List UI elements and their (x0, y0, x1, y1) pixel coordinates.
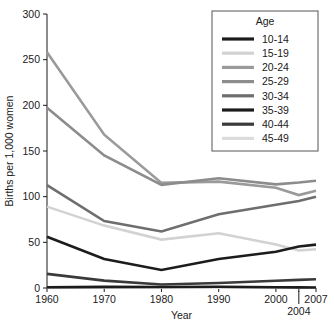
legend-label-20-24: 20-24 (262, 61, 289, 73)
y-tick-label: 250 (22, 53, 40, 65)
series-line-15-19 (47, 207, 316, 251)
y-tick-label: 50 (28, 236, 40, 248)
x-tick-label: 1960 (35, 293, 59, 305)
x-axis-title: Year (171, 309, 193, 321)
y-tick-label: 100 (22, 190, 40, 202)
chart-root: 3002502001501005001960197019801990200020… (0, 0, 334, 325)
y-tick-label: 0 (34, 282, 40, 294)
y-tick-label: 300 (22, 8, 40, 20)
x-tick-label: 1990 (207, 293, 231, 305)
legend-label-15-19: 15-19 (262, 47, 289, 59)
x-tick-label: 2000 (264, 293, 288, 305)
legend-label-30-34: 30-34 (262, 90, 289, 102)
x-tick-label: 1970 (93, 293, 117, 305)
y-tick-label: 200 (22, 99, 40, 111)
legend-label-45-49: 45-49 (262, 132, 289, 144)
line-chart: 3002502001501005001960197019801990200020… (0, 0, 334, 325)
series-line-35-39 (47, 237, 316, 270)
y-axis-title: Births per 1,000 women (3, 95, 15, 206)
legend-title: Age (256, 15, 275, 27)
series-line-40-44 (47, 274, 316, 285)
legend-label-25-29: 25-29 (262, 75, 289, 87)
legend-label-10-14: 10-14 (262, 33, 289, 45)
legend-label-35-39: 35-39 (262, 104, 289, 116)
legend-label-40-44: 40-44 (262, 118, 289, 130)
series-line-10-14 (47, 287, 316, 288)
y-tick-label: 150 (22, 145, 40, 157)
x-tick-label: 1980 (150, 293, 174, 305)
chart-legend: Age10-1415-1920-2425-2930-3435-3940-4445… (212, 11, 318, 151)
x-tick-label: 2004 (287, 305, 311, 317)
series-line-30-34 (47, 185, 316, 231)
x-tick-label: 2007 (304, 293, 328, 305)
